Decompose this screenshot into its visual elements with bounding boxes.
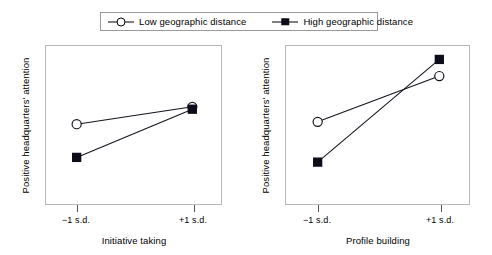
x-tick-high-right — [441, 205, 442, 212]
x-tick-high-left — [194, 205, 195, 212]
x-tick-low-left — [77, 205, 78, 212]
y-axis-label-left: Positive headquarters' attention — [18, 45, 32, 205]
x-tick-label-high-left: +1 s.d. — [179, 215, 207, 225]
series-canvas-right — [286, 46, 469, 204]
x-axis-label-right: Profile building — [346, 235, 410, 246]
legend-item-high-distance: High geographic distance — [272, 13, 413, 30]
series-low-distance-right — [313, 71, 444, 126]
x-tick-label-low-left: −1 s.d. — [62, 215, 90, 225]
series-high-distance-left — [72, 105, 197, 162]
figure-root: Low geographic distance High geographic … — [0, 0, 492, 255]
chart-legend: Low geographic distance High geographic … — [100, 12, 378, 31]
x-tick-low-right — [318, 205, 319, 212]
x-tick-label-high-right: +1 s.d. — [426, 215, 454, 225]
filled-square-marker-icon — [272, 16, 298, 28]
x-tick-label-low-right: −1 s.d. — [303, 215, 331, 225]
plot-area-left — [45, 45, 222, 205]
legend-label-low-distance: Low geographic distance — [139, 16, 246, 27]
series-canvas-left — [46, 46, 221, 204]
legend-item-low-distance: Low geographic distance — [108, 13, 246, 30]
y-axis-label-right: Positive headquarters' attention — [258, 45, 272, 205]
x-axis-label-left: Initiative taking — [102, 235, 167, 246]
legend-label-high-distance: High geographic distance — [303, 16, 413, 27]
plot-area-right — [285, 45, 470, 205]
open-circle-marker-icon — [108, 16, 134, 28]
series-high-distance-right — [313, 55, 444, 167]
